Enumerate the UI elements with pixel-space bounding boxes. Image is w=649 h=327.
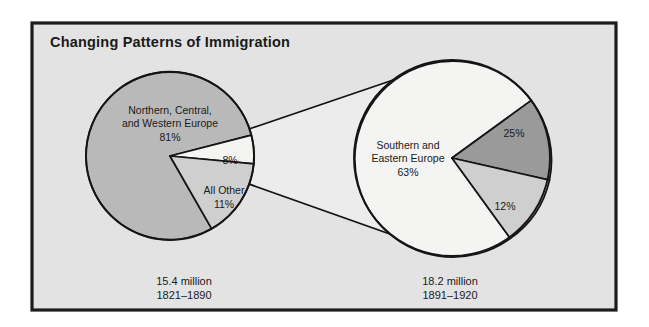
left-slice-eight-percent-value: 8%: [222, 154, 237, 166]
left-pie-caption-period: 1821–1890: [156, 289, 211, 301]
right-slice-southern-europe-value: 63%: [397, 166, 418, 178]
right-slice-twentyfive-percent-value: 25%: [503, 127, 524, 139]
right-pie-caption-period: 1891–1920: [422, 289, 477, 301]
left-slice-northern-europe-label-line2: and Western Europe: [122, 117, 218, 129]
page-title: Changing Patterns of Immigration: [50, 34, 290, 50]
right-slice-twelve-percent-value: 12%: [494, 200, 515, 212]
left-slice-northern-europe-value: 81%: [159, 131, 180, 143]
left-slice-northern-europe-label-line1: Northern, Central,: [128, 104, 211, 116]
figure-root: Changing Patterns of Immigration Norther…: [0, 0, 649, 327]
right-pie-caption-total: 18.2 million: [422, 275, 478, 287]
left-pie-caption-total: 15.4 million: [156, 275, 212, 287]
left-slice-all-other-value: 11%: [214, 198, 234, 210]
right-slice-southern-europe-label-line1: Southern and: [376, 139, 439, 151]
right-slice-southern-europe-label-line2: Eastern Europe: [372, 152, 445, 164]
immigration-pie-figure: Changing Patterns of Immigration Norther…: [0, 0, 649, 327]
left-slice-all-other-label: All Other: [204, 184, 245, 196]
